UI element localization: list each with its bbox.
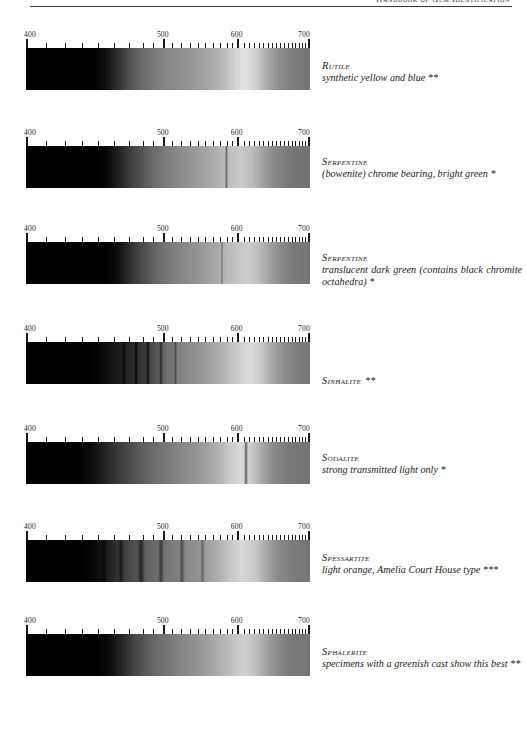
wavelength-scale: 400500600700: [26, 618, 310, 634]
axis-label-500: 500: [157, 128, 169, 137]
axis-tick-major: [163, 625, 165, 634]
wavelength-scale: 400500600700: [26, 326, 310, 342]
axis-label-700: 700: [298, 522, 310, 531]
axis-label-700: 700: [298, 324, 310, 333]
axis-tick-major: [26, 333, 28, 342]
axis-label-600: 600: [231, 30, 243, 39]
axis-label-600: 600: [231, 522, 243, 531]
axis-tick-major: [163, 531, 165, 540]
axis-label-400: 400: [24, 224, 36, 233]
absorption-lines: [26, 540, 310, 582]
wavelength-scale: 400500600700: [26, 226, 310, 242]
mineral-description: (bowenite) chrome bearing, bright green …: [322, 168, 522, 180]
axis-label-700: 700: [298, 616, 310, 625]
wavelength-scale: 400500600700: [26, 130, 310, 146]
axis-tick-major: [26, 137, 28, 146]
absorption-line: [200, 540, 205, 582]
spectrum-caption-serpentine-bowenite: Serpentine(bowenite) chrome bearing, bri…: [322, 156, 522, 180]
spectrum-bar: [26, 634, 310, 676]
axis-label-500: 500: [157, 324, 169, 333]
mineral-name: Sodalite: [322, 452, 522, 464]
absorption-line: [158, 540, 164, 582]
spectrum-caption-spessartite: Spessartitelight orange, Amelia Court Ho…: [322, 552, 522, 576]
absorption-line: [122, 342, 126, 384]
absorption-line: [118, 540, 124, 582]
mineral-name: Rutile: [322, 60, 522, 72]
wavelength-scale: 400500600700: [26, 32, 310, 48]
spectrum-bar: [26, 442, 310, 484]
axis-label-700: 700: [298, 128, 310, 137]
absorption-line: [179, 540, 185, 582]
axis-label-600: 600: [231, 224, 243, 233]
axis-label-400: 400: [24, 324, 36, 333]
axis-tick-major: [163, 433, 165, 442]
absorption-line: [244, 442, 248, 484]
absorption-line: [137, 540, 144, 582]
spectrum-caption-rutile: Rutilesynthetic yellow and blue **: [322, 60, 522, 84]
running-head-rule: [30, 6, 512, 7]
axis-label-500: 500: [157, 522, 169, 531]
axis-label-700: 700: [298, 30, 310, 39]
axis-tick-major: [26, 625, 28, 634]
spectrum-caption-serpentine-translucent: Serpentinetranslucent dark green (contai…: [322, 252, 522, 289]
absorption-lines: [26, 342, 310, 384]
axis-tick-major: [237, 233, 239, 242]
axis-tick-major: [308, 625, 310, 634]
axis-label-400: 400: [24, 30, 36, 39]
axis-label-400: 400: [24, 128, 36, 137]
spectrum-bar: [26, 342, 310, 384]
axis-tick-major: [26, 39, 28, 48]
axis-tick-major: [308, 531, 310, 540]
axis-tick-major: [308, 39, 310, 48]
axis-tick-major: [308, 233, 310, 242]
axis-tick-major: [163, 233, 165, 242]
axis-label-600: 600: [231, 424, 243, 433]
spectrum-bar: [26, 48, 310, 90]
axis-tick-major: [237, 39, 239, 48]
mineral-description: translucent dark green (contains black c…: [322, 264, 522, 289]
absorption-lines: [26, 634, 310, 676]
spectrum-bar: [26, 242, 310, 284]
absorption-line: [221, 242, 224, 284]
mineral-name: Spessartite: [322, 552, 522, 564]
caption-line: Sinhalite**: [322, 370, 522, 388]
wavelength-scale: 400500600700: [26, 426, 310, 442]
axis-label-600: 600: [231, 616, 243, 625]
mineral-name: Sphalerite: [322, 646, 522, 658]
axis-label-700: 700: [298, 224, 310, 233]
axis-tick-major: [237, 137, 239, 146]
spectrum-caption-sphalerite: Sphaleritespecimens with a greenish cast…: [322, 646, 522, 670]
absorption-lines: [26, 242, 310, 284]
axis-tick-major: [308, 333, 310, 342]
axis-tick-major: [237, 531, 239, 540]
axis-tick-major: [26, 433, 28, 442]
absorption-line: [101, 540, 107, 582]
axis-label-400: 400: [24, 522, 36, 531]
axis-label-400: 400: [24, 616, 36, 625]
absorption-lines: [26, 48, 310, 90]
running-head-title: Handbook of Gem Identification: [376, 0, 510, 4]
axis-tick-major: [308, 137, 310, 146]
axis-label-500: 500: [157, 224, 169, 233]
absorption-lines: [26, 442, 310, 484]
axis-tick-major: [237, 333, 239, 342]
absorption-line: [225, 146, 228, 188]
mineral-name: Serpentine: [322, 252, 522, 264]
spectrum-caption-sodalite: Sodalitestrong transmitted light only *: [322, 452, 522, 476]
axis-label-600: 600: [231, 128, 243, 137]
mineral-description: **: [365, 375, 375, 386]
mineral-name: Serpentine: [322, 156, 522, 168]
axis-tick-major: [237, 433, 239, 442]
spectrum-bar: [26, 146, 310, 188]
spectrum-bar: [26, 540, 310, 582]
axis-tick-major: [237, 625, 239, 634]
spectrum-caption-sinhalite: Sinhalite**: [322, 370, 522, 388]
axis-label-500: 500: [157, 30, 169, 39]
axis-tick-major: [26, 233, 28, 242]
axis-tick-major: [308, 433, 310, 442]
axis-label-700: 700: [298, 424, 310, 433]
axis-tick-major: [26, 531, 28, 540]
wavelength-scale: 400500600700: [26, 524, 310, 540]
mineral-description: synthetic yellow and blue **: [322, 72, 522, 84]
mineral-description: light orange, Amelia Court House type **…: [322, 564, 522, 576]
